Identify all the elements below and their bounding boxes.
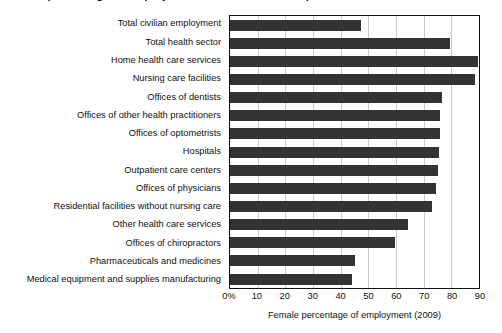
- bar-row: [230, 270, 479, 288]
- bar-row: [230, 70, 479, 88]
- bar-row: [230, 234, 479, 252]
- bar: [230, 237, 395, 248]
- category-label: Outpatient care centers: [0, 161, 225, 179]
- bar-row: [230, 216, 479, 234]
- category-label: Offices of optometrists: [0, 125, 225, 143]
- bar: [230, 128, 440, 139]
- bar-row: [230, 161, 479, 179]
- category-label: Total civilian employment: [0, 15, 225, 33]
- x-tick-label: 60: [391, 291, 401, 301]
- bar-row: [230, 125, 479, 143]
- chart-figure: Female percentage of employment in healt…: [0, 0, 502, 333]
- category-label: Hospitals: [0, 143, 225, 161]
- x-tick-label: 20: [280, 291, 290, 301]
- x-tick-label: 10: [252, 291, 262, 301]
- x-tick-label: 80: [447, 291, 457, 301]
- bar-row: [230, 89, 479, 107]
- chart-title: Female percentage of employment in healt…: [4, 0, 347, 1]
- category-label: Total health sector: [0, 33, 225, 51]
- bar-row: [230, 107, 479, 125]
- category-label: Pharmaceuticals and medicines: [0, 252, 225, 270]
- bar-row: [230, 179, 479, 197]
- bar: [230, 20, 361, 31]
- category-axis-labels: Total civilian employmentTotal health se…: [0, 15, 225, 289]
- category-label: Other health care services: [0, 216, 225, 234]
- category-label: Offices of other health practitioners: [0, 106, 225, 124]
- category-label: Offices of physicians: [0, 179, 225, 197]
- category-label: Nursing care facilities: [0, 70, 225, 88]
- bar: [230, 201, 432, 212]
- x-axis-label: Female percentage of employment (2009): [229, 310, 480, 320]
- category-label: Offices of chiropractors: [0, 234, 225, 252]
- x-tick-label: 50: [363, 291, 373, 301]
- bar: [230, 92, 442, 103]
- bar-row: [230, 143, 479, 161]
- plot-area: [229, 15, 480, 289]
- bar: [230, 274, 352, 285]
- x-axis-ticks: 0%102030405060708090: [229, 291, 480, 305]
- bar: [230, 183, 436, 194]
- bar: [230, 110, 440, 121]
- x-tick-label: 30: [307, 291, 317, 301]
- bar: [230, 38, 450, 49]
- category-label: Medical equipment and supplies manufactu…: [0, 271, 225, 289]
- x-tick-label: 90: [475, 291, 485, 301]
- bar-row: [230, 252, 479, 270]
- x-tick-label: 70: [419, 291, 429, 301]
- chart-title-clipped: Female percentage of employment in healt…: [0, 0, 502, 9]
- x-tick-label: 40: [335, 291, 345, 301]
- bar: [230, 56, 478, 67]
- category-label: Home health care services: [0, 52, 225, 70]
- bar-row: [230, 197, 479, 215]
- category-label: Residential facilities without nursing c…: [0, 198, 225, 216]
- bar-row: [230, 16, 479, 34]
- category-label: Offices of dentists: [0, 88, 225, 106]
- bar: [230, 165, 438, 176]
- bar: [230, 147, 439, 158]
- x-tick-label: 0%: [222, 291, 235, 301]
- bar: [230, 219, 408, 230]
- bar-series: [230, 16, 479, 288]
- bar: [230, 74, 475, 85]
- bar-row: [230, 34, 479, 52]
- bar-row: [230, 52, 479, 70]
- bar: [230, 255, 355, 266]
